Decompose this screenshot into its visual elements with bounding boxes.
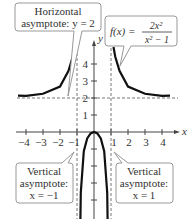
callout-text: x = −1 [30, 189, 59, 201]
x-tick-label: 4 [160, 136, 166, 148]
y-tick-label: 4 [83, 58, 89, 70]
horizontal-asymptote-callout: Horizontal asymptote: y = 2 [15, 3, 101, 96]
y-tick-label: 2 [83, 92, 89, 104]
y-tick-label: 3 [83, 75, 89, 87]
x-tick-labels: −4 −3 −2 −1 1 2 3 4 [18, 136, 166, 148]
x-axis-arrow-icon [174, 130, 180, 134]
callout-text: asymptote: [20, 177, 68, 189]
vertical-asymptote-right-callout: Vertical asymptote: x = 1 [114, 152, 173, 203]
x-tick-label: 2 [126, 136, 132, 148]
x-tick-label: 1 [111, 136, 117, 148]
vertical-asymptote-left-callout: Vertical asymptote: x = −1 [16, 152, 74, 203]
x-tick-label: −2 [52, 136, 64, 148]
callout-text: Horizontal [34, 5, 81, 17]
function-numerator: 2x² [150, 20, 163, 31]
x-tick-label: 3 [143, 136, 149, 148]
x-tick-label: −1 [68, 136, 80, 148]
rational-function-graph: −4 −3 −2 −1 1 2 3 4 1 2 3 4 x y Horizont… [0, 0, 193, 219]
callout-text: Vertical [127, 165, 161, 177]
y-tick-label: 1 [83, 109, 89, 121]
y-axis-arrow-icon [92, 40, 96, 46]
y-axis-label: y [97, 32, 103, 44]
y-tick-labels: 1 2 3 4 [83, 58, 89, 121]
callout-text: Vertical [27, 165, 61, 177]
callout-text: asymptote: y = 2 [21, 17, 95, 29]
x-axis-label: x [181, 125, 187, 137]
x-tick-label: −4 [18, 136, 30, 148]
function-denominator: x² − 1 [144, 34, 169, 45]
x-tick-label: −3 [35, 136, 47, 148]
callout-text: x = 1 [133, 189, 156, 201]
function-lhs: f(x) = [110, 25, 135, 38]
left-branch-curve [18, 47, 75, 96]
callout-text: asymptote: [120, 177, 168, 189]
